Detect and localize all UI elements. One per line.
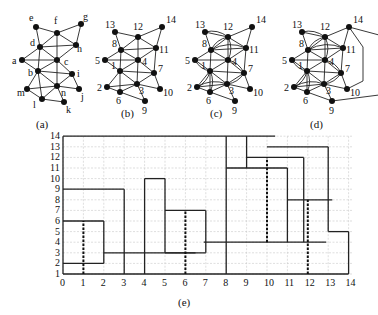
- graph-node: [135, 34, 141, 40]
- graph-edge: [22, 47, 40, 60]
- graph-edge: [308, 37, 325, 50]
- x-tick-label: 11: [284, 277, 294, 288]
- graph-node: [54, 57, 60, 63]
- x-tick-label: 2: [101, 277, 106, 288]
- node-label: 2: [97, 82, 102, 93]
- graph-node: [346, 24, 352, 30]
- graph-edge: [227, 73, 244, 84]
- y-tick-label: 11: [50, 162, 60, 173]
- graph-node: [104, 84, 110, 90]
- x-tick-label: 5: [162, 277, 167, 288]
- graph-node: [241, 70, 247, 76]
- graph-edge: [227, 60, 228, 84]
- node-label: 13: [105, 19, 115, 30]
- graph-edge: [308, 48, 343, 50]
- x-tick-label: 13: [325, 277, 335, 288]
- node-label: j: [80, 91, 84, 102]
- node-label: 1: [111, 60, 116, 71]
- node-label: 1: [298, 60, 303, 71]
- graph-edge: [154, 48, 156, 73]
- node-label: 10: [163, 87, 173, 98]
- y-tick-label: 6: [55, 215, 60, 226]
- graph-edge: [36, 27, 40, 47]
- graph-edge: [57, 24, 81, 33]
- graph-a: efgdhacbimnjlk: [12, 11, 88, 115]
- node-label: 14: [353, 14, 363, 25]
- graph-node: [208, 47, 214, 53]
- node-label: a: [12, 55, 17, 66]
- node-label: 4: [142, 56, 147, 67]
- caption-e: (e): [178, 296, 191, 309]
- node-label: 3: [326, 85, 331, 96]
- graph-node: [24, 86, 30, 92]
- graph-node: [54, 30, 60, 36]
- graph-edge: [210, 71, 244, 73]
- node-label: 8: [299, 38, 304, 49]
- graph-edge: [36, 27, 57, 33]
- node-label: 3: [229, 85, 234, 96]
- x-tick-label: 9: [244, 277, 249, 288]
- node-label: h: [77, 43, 82, 54]
- graph-node: [151, 70, 157, 76]
- graph-node: [225, 34, 231, 40]
- graph-edge: [211, 48, 246, 50]
- y-tick-label: 4: [55, 236, 60, 247]
- graph-node: [135, 57, 141, 63]
- x-tick-label: 12: [305, 277, 315, 288]
- node-label: b: [28, 67, 33, 78]
- node-label: 3: [139, 85, 144, 96]
- x-tick-label: 10: [264, 277, 274, 288]
- graph-node: [102, 57, 108, 63]
- node-label: k: [66, 104, 71, 115]
- chart-tick-labels: 012345678910111213141234567891011121314: [50, 130, 356, 288]
- node-label: 5: [185, 55, 190, 66]
- y-tick-label: 14: [50, 130, 60, 141]
- graph-node: [322, 57, 328, 63]
- graph-edge: [115, 32, 138, 37]
- node-label: 8: [202, 38, 207, 49]
- node-label: 7: [158, 63, 163, 74]
- graph-edge: [341, 48, 343, 73]
- node-label: 12: [133, 21, 143, 32]
- node-label: 12: [320, 21, 330, 32]
- node-label: 1: [201, 60, 206, 71]
- node-label: i: [77, 68, 80, 79]
- y-tick-label: 5: [55, 226, 60, 237]
- graph-node: [35, 68, 41, 74]
- graph-edge: [210, 50, 211, 71]
- node-label: 8: [112, 38, 117, 49]
- node-label: 5: [282, 55, 287, 66]
- graph-edge: [307, 60, 325, 71]
- x-tick-label: 7: [203, 277, 208, 288]
- node-label: 9: [232, 105, 237, 116]
- graph-edge: [40, 47, 57, 60]
- graph-edge: [137, 73, 154, 84]
- graph-edge: [197, 71, 210, 87]
- y-tick-label: 1: [55, 268, 60, 279]
- graph-d: 1312148115417231069: [282, 14, 378, 116]
- graph-node: [118, 47, 124, 53]
- node-label: 14: [166, 14, 176, 25]
- graph-edge: [38, 71, 42, 99]
- x-tick-label: 14: [346, 277, 356, 288]
- y-tick-label: 13: [50, 141, 60, 152]
- chart-segments: [63, 136, 349, 274]
- node-label: 6: [206, 95, 211, 106]
- y-tick-label: 8: [55, 194, 60, 205]
- y-tick-label: 2: [55, 257, 60, 268]
- node-label: 4: [329, 56, 334, 67]
- graph-edge: [210, 60, 228, 71]
- x-tick-label: 4: [142, 277, 147, 288]
- node-label: 11: [159, 44, 169, 55]
- graph-edge: [107, 71, 120, 87]
- graph-node: [338, 70, 344, 76]
- node-label: 13: [195, 19, 205, 30]
- graph-node: [192, 57, 198, 63]
- node-label: 2: [187, 82, 192, 93]
- y-tick-label: 10: [50, 173, 60, 184]
- graph-node: [289, 57, 295, 63]
- graph-node: [207, 68, 213, 74]
- graph-node: [39, 96, 45, 102]
- graph-node: [159, 24, 165, 30]
- graph-node: [329, 98, 335, 104]
